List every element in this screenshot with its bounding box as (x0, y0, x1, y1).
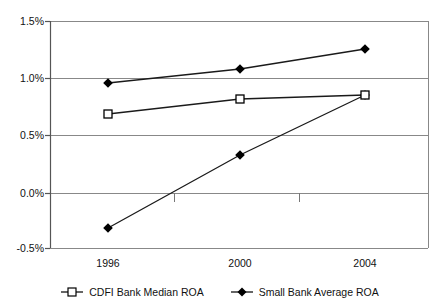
data-point-marker (235, 150, 245, 160)
y-axis-ticks (45, 22, 50, 249)
gridlines (50, 22, 428, 249)
x-axis-minor-ticks (175, 193, 300, 202)
data-point-marker (361, 91, 369, 99)
chart-container: 1.5% 1.0% 0.5% 0.0% -0.5% 1996 2000 2004 (0, 0, 439, 307)
data-point-marker (103, 223, 113, 233)
plot-area (0, 0, 439, 307)
series-cdfi-bank-median-roa (104, 91, 369, 118)
data-point-marker (236, 95, 244, 103)
chart-legend: CDFI Bank Median ROA Small Bank Average … (0, 281, 439, 303)
data-point-marker (360, 44, 370, 54)
data-point-marker (235, 64, 245, 74)
data-point-marker (103, 78, 113, 88)
series-small-bank-path (108, 49, 365, 83)
legend-label: Small Bank Average ROA (259, 286, 379, 298)
series-line-unlabeled (103, 90, 370, 233)
series-unlabeled-path (108, 95, 365, 228)
legend-entry-cdfi-bank-median-roa: CDFI Bank Median ROA (60, 286, 203, 298)
legend-label: CDFI Bank Median ROA (89, 286, 203, 298)
open-square-marker-icon (60, 286, 84, 298)
legend-entry-small-bank-average-roa: Small Bank Average ROA (230, 286, 379, 298)
data-point-marker (104, 110, 112, 118)
series-small-bank-average-roa (103, 44, 370, 88)
filled-diamond-marker-icon (230, 286, 254, 298)
